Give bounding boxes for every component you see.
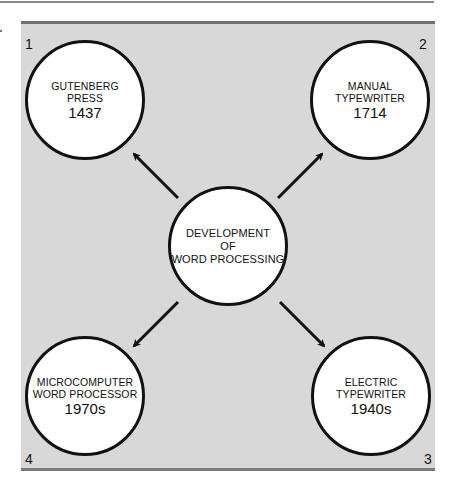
node-year: 1714 [353, 105, 386, 121]
node-label-line: MICROCOMPUTER [37, 376, 133, 388]
arrow-to-node-1 [134, 154, 178, 198]
node-number-1: 1 [25, 36, 33, 52]
node-label-line: GUTENBERG [51, 80, 118, 92]
node-year: 1970s [65, 401, 106, 417]
node-microcomputer-word-processor: MICROCOMPUTER WORD PROCESSOR 1970s [25, 336, 145, 456]
center-label-line: DEVELOPMENT [186, 227, 270, 240]
node-year: 1940s [351, 401, 392, 417]
node-year: 1437 [68, 105, 101, 121]
node-label-line: PRESS [67, 92, 103, 104]
arrow-to-node-2 [278, 154, 322, 198]
node-label-line: TYPEWRITER [336, 388, 406, 400]
arrow-to-node-3 [280, 302, 324, 346]
node-label-line: WORD PROCESSOR [33, 388, 138, 400]
node-label-line: MANUAL [348, 80, 392, 92]
node-number-2: 2 [419, 36, 427, 52]
center-label-line: WORD PROCESSING [172, 253, 285, 266]
node-label-line: ELECTRIC [345, 376, 398, 388]
center-topic: DEVELOPMENT OF WORD PROCESSING [168, 186, 288, 306]
node-gutenberg-press: GUTENBERG PRESS 1437 [25, 40, 145, 160]
node-number-3: 3 [424, 451, 432, 467]
center-label-line: OF [220, 240, 235, 253]
node-number-4: 4 [25, 451, 33, 467]
node-manual-typewriter: MANUAL TYPEWRITER 1714 [310, 40, 430, 160]
node-label-line: TYPEWRITER [335, 92, 405, 104]
arrow-to-node-4 [134, 302, 178, 346]
node-electric-typewriter: ELECTRIC TYPEWRITER 1940s [311, 336, 431, 456]
